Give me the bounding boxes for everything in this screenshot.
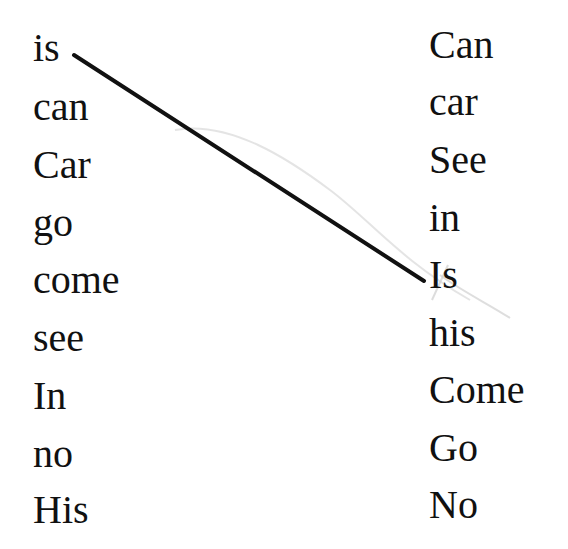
left-word[interactable]: can <box>33 87 89 127</box>
right-word[interactable]: See <box>429 140 487 180</box>
match-line-is-to-Is[interactable] <box>74 55 424 281</box>
left-word[interactable]: Car <box>33 145 91 185</box>
right-word[interactable]: No <box>429 485 478 525</box>
left-word[interactable]: come <box>33 260 120 300</box>
right-word[interactable]: Come <box>429 370 525 410</box>
left-word[interactable]: go <box>33 203 73 243</box>
left-word[interactable]: His <box>33 490 89 530</box>
right-word[interactable]: car <box>429 82 478 122</box>
right-word[interactable]: Is <box>429 255 458 295</box>
left-word[interactable]: see <box>33 318 84 358</box>
right-word[interactable]: his <box>429 313 476 353</box>
left-word[interactable]: In <box>33 376 66 416</box>
left-word[interactable]: is <box>33 28 60 68</box>
right-word[interactable]: Can <box>429 25 493 65</box>
left-word[interactable]: no <box>33 434 73 474</box>
right-word[interactable]: in <box>429 198 460 238</box>
right-word[interactable]: Go <box>429 428 478 468</box>
